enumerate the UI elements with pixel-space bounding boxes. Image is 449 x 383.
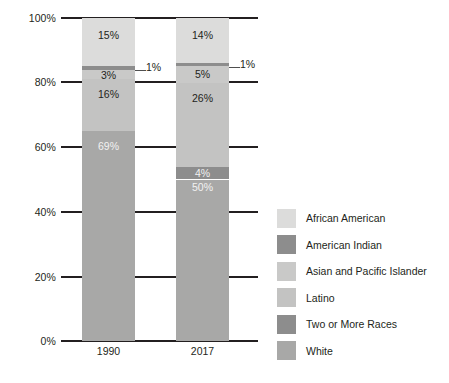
segment-label-2017-white: 50% — [176, 182, 229, 193]
segment-2017-white[interactable]: 50% — [176, 180, 229, 342]
segment-label-2017-latino: 26% — [176, 93, 229, 104]
legend-item-african-american[interactable]: African American — [277, 205, 427, 232]
segment-label-1990-latino: 16% — [82, 89, 135, 100]
legend-swatch-white — [277, 341, 296, 360]
segment-2017-two-or-more-races[interactable]: 4% — [176, 167, 229, 180]
ytick-label-0: 0% — [8, 335, 56, 347]
segment-label-2017-african-american: 14% — [176, 30, 229, 41]
legend-label-american-indian: American Indian — [306, 239, 382, 251]
legend-label-white: White — [306, 345, 333, 357]
callout-label-1990-american-indian: 1% — [146, 61, 161, 73]
legend-label-two-or-more-races: Two or More Races — [306, 318, 397, 330]
legend-swatch-asian-pacific-islander — [277, 262, 296, 281]
xtick-label-2017: 2017 — [176, 345, 229, 357]
segment-1990-latino[interactable]: 16% — [82, 79, 135, 131]
ytick-label-20: 20% — [8, 271, 56, 283]
ytick-label-80: 80% — [8, 76, 56, 88]
legend-swatch-american-indian — [277, 235, 296, 254]
ytick-label-60: 60% — [8, 141, 56, 153]
segment-label-1990-white: 69% — [82, 141, 135, 152]
callout-label-2017-american-indian: 1% — [240, 58, 255, 70]
bar-2017[interactable]: 14% 5% 26% 4% 50% — [176, 18, 229, 341]
segment-label-2017-asian-pacific-islander: 5% — [176, 69, 229, 80]
callout-line-1990-american-indian — [135, 70, 146, 71]
segment-label-2017-two-or-more-races: 4% — [176, 168, 229, 179]
ytick-label-100: 100% — [8, 12, 56, 24]
legend-item-asian-pacific-islander[interactable]: Asian and Pacific Islander — [277, 258, 427, 285]
xtick-label-1990: 1990 — [82, 345, 135, 357]
bar-1990[interactable]: 15% 3% 16% 69% — [82, 18, 135, 341]
legend-label-asian-pacific-islander: Asian and Pacific Islander — [306, 265, 427, 277]
legend-item-latino[interactable]: Latino — [277, 285, 427, 312]
ytick-label-40: 40% — [8, 206, 56, 218]
segment-1990-white[interactable]: 69% — [82, 131, 135, 341]
stacked-bar-chart: 100% 80% 60% 40% 20% 0% 15% 3% 16% 69% 1… — [0, 0, 449, 383]
segment-2017-asian-pacific-islander[interactable]: 5% — [176, 66, 229, 82]
legend-swatch-two-or-more-races — [277, 315, 296, 334]
legend-label-latino: Latino — [306, 292, 335, 304]
legend-item-two-or-more-races[interactable]: Two or More Races — [277, 311, 427, 338]
segment-label-1990-african-american: 15% — [82, 30, 135, 41]
segment-1990-asian-pacific-islander[interactable]: 3% — [82, 70, 135, 80]
legend-item-white[interactable]: White — [277, 338, 427, 365]
callout-line-2017-american-indian — [229, 67, 240, 68]
legend-swatch-african-american — [277, 209, 296, 228]
legend-label-african-american: African American — [306, 212, 385, 224]
segment-2017-african-american[interactable]: 14% — [176, 18, 229, 63]
segment-2017-latino[interactable]: 26% — [176, 83, 229, 167]
legend: African American American Indian Asian a… — [277, 205, 427, 364]
legend-swatch-latino — [277, 288, 296, 307]
segment-1990-african-american[interactable]: 15% — [82, 18, 135, 66]
legend-item-american-indian[interactable]: American Indian — [277, 232, 427, 259]
